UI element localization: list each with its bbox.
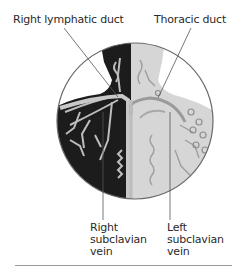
magnified-view-circle — [50, 40, 220, 205]
label-thoracic-duct: Thoracic duct — [154, 14, 226, 26]
label-right-lymphatic-duct: Right lymphatic duct — [13, 14, 124, 26]
label-right-subclavian-vein: Right subclavian vein — [90, 222, 147, 258]
label-line: vein — [90, 246, 147, 258]
label-left-subclavian-vein: Left subclavian vein — [167, 222, 224, 258]
bottom-divider — [15, 265, 232, 266]
label-line: vein — [167, 246, 224, 258]
